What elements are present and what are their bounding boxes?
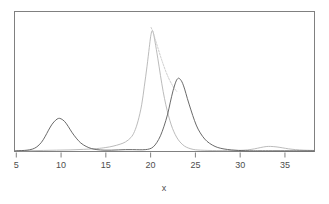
plot-canvas [0,0,329,204]
x-tick-label: 20 [146,160,156,170]
x-tick-label: 35 [280,160,290,170]
figure-background [0,0,329,204]
density-plot-figure: 5101520253035 x [0,0,329,204]
x-axis-title: x [162,183,167,193]
x-tick-label: 25 [190,160,200,170]
x-tick-label: 15 [101,160,111,170]
x-tick-label: 30 [235,160,245,170]
x-tick-label: 5 [14,160,19,170]
x-tick-label: 10 [56,160,66,170]
